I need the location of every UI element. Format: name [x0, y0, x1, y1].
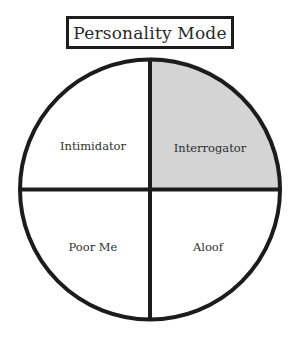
- quadrant-interrogator-label: Interrogator: [174, 141, 247, 155]
- personality-quadrant-circle: Intimidator Interrogator Poor Me Aloof: [0, 0, 295, 345]
- quadrant-aloof-label: Aloof: [192, 240, 224, 254]
- quadrant-intimidator-label: Intimidator: [60, 139, 127, 153]
- quadrant-poor-me-label: Poor Me: [69, 240, 118, 254]
